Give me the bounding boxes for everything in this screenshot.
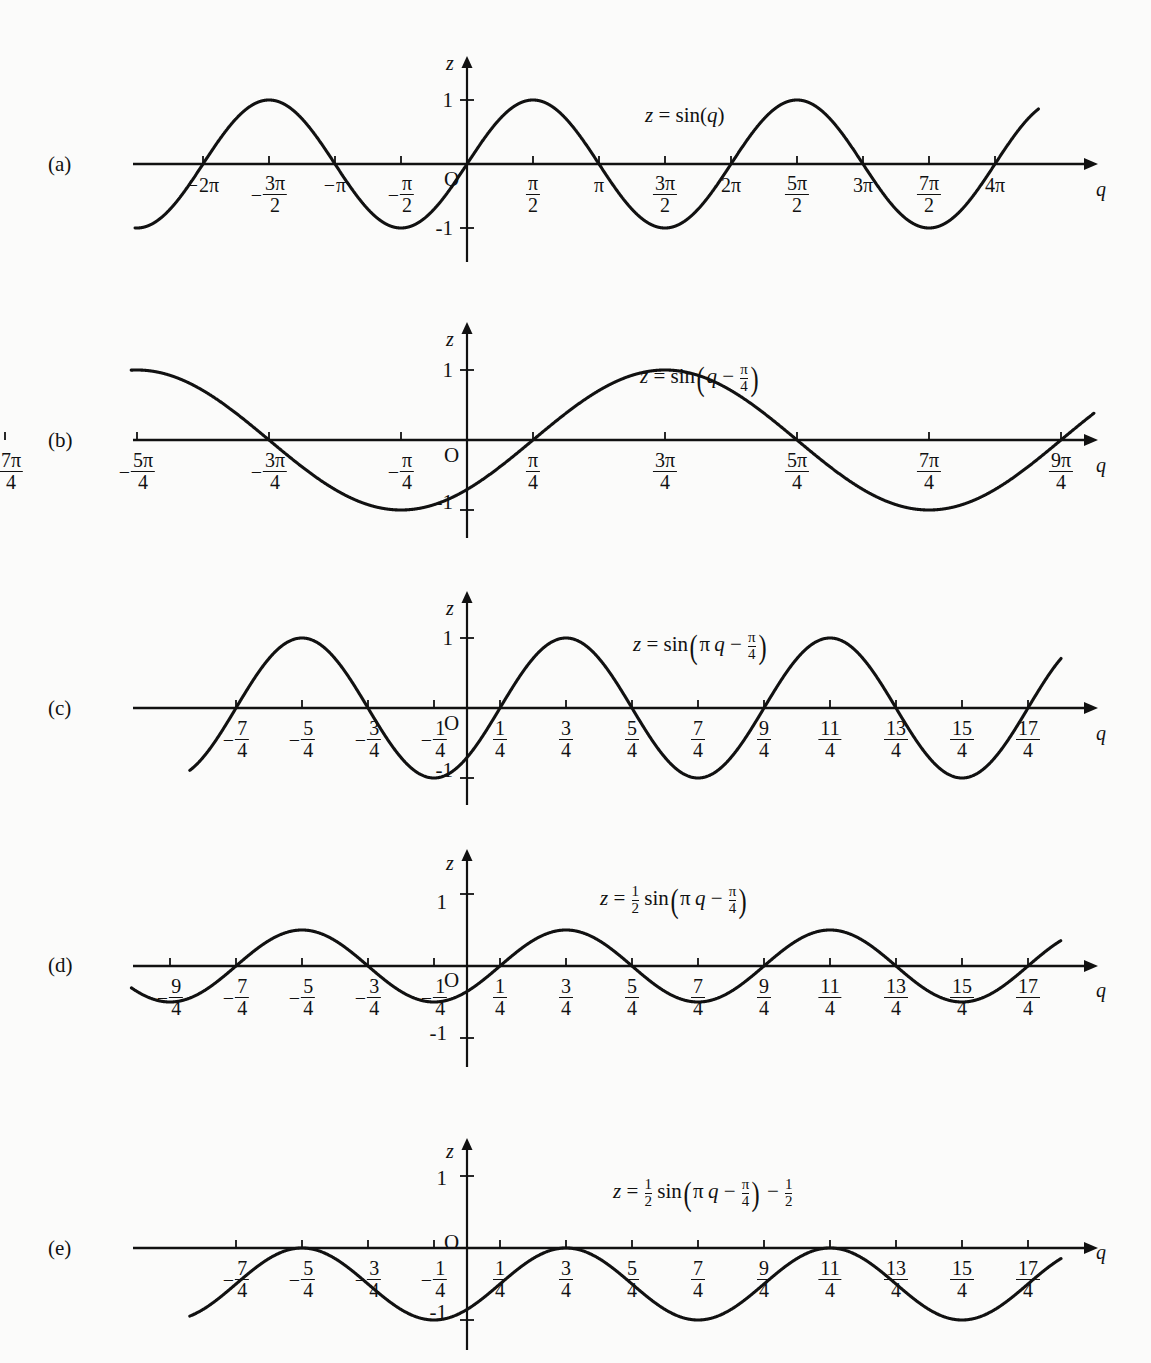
x-tick-label: −3π2 — [251, 173, 287, 216]
x-tick-label: 94 — [757, 976, 771, 1019]
x-tick-label: −74 — [223, 976, 249, 1019]
y-axis-arrow — [462, 322, 473, 334]
y-axis-arrow — [462, 849, 473, 861]
x-tick-label: −54 — [289, 718, 315, 761]
x-axis-label-b: q — [1096, 454, 1106, 477]
x-tick-label: 114 — [818, 718, 841, 761]
x-tick-label: 5π4 — [785, 450, 809, 493]
x-tick-label: 114 — [818, 976, 841, 1019]
x-tick-label: 134 — [884, 976, 908, 1019]
x-axis-label-e: q — [1096, 1241, 1106, 1264]
x-axis-label-c: q — [1096, 722, 1106, 745]
x-tick-label: π2 — [526, 173, 540, 216]
x-tick-label: 14 — [493, 1258, 507, 1301]
y-tick-e-1: 1 — [421, 1166, 447, 1191]
y-tick-b-1: 1 — [427, 358, 453, 383]
x-tick-label: −7π4 — [0, 450, 23, 493]
y-tick-a-minus1: -1 — [415, 216, 453, 241]
x-tick-label: 94 — [757, 1258, 771, 1301]
y-axis-label-b: z — [446, 328, 454, 351]
x-tick-label: 54 — [625, 718, 639, 761]
x-tick-label: 74 — [691, 976, 705, 1019]
x-tick-label: 154 — [950, 1258, 974, 1301]
x-tick-label: 34 — [559, 718, 573, 761]
equation-a: z = sin(q) — [645, 103, 725, 128]
chart-panel-d: (d) z q O 1 -1 z = 12 sin(π q − π4) −94−… — [0, 845, 1151, 1120]
x-tick-label: 174 — [1016, 1258, 1040, 1301]
y-axis-label-d: z — [446, 852, 454, 875]
chart-panel-a: (a) z q O 1 -1 z = sin(q) −2π−3π2−π−π2π2… — [0, 0, 1151, 300]
y-axis-arrow — [462, 1138, 473, 1150]
x-tick-label: 7π4 — [917, 450, 941, 493]
x-tick-label: 154 — [950, 976, 974, 1019]
x-tick-label: 14 — [493, 718, 507, 761]
x-tick-label: 7π2 — [917, 173, 941, 216]
y-tick-d-1: 1 — [421, 890, 447, 915]
y-axis-label-c: z — [446, 597, 454, 620]
x-tick-label: 114 — [818, 1258, 841, 1301]
x-tick-label: 3π2 — [653, 173, 677, 216]
x-tick-label: 4π — [985, 173, 1005, 195]
plot-area-c — [0, 575, 1151, 845]
x-tick-label: 74 — [691, 1258, 705, 1301]
x-tick-label: 94 — [757, 718, 771, 761]
x-tick-label: 14 — [493, 976, 507, 1019]
equation-d: z = 12 sin(π q − π4) — [600, 884, 749, 917]
x-tick-label: −2π — [187, 173, 219, 195]
origin-label-a: O — [444, 167, 459, 192]
x-axis-arrow — [1084, 702, 1098, 714]
x-tick-label: 54 — [625, 1258, 639, 1301]
y-tick-c-minus1: -1 — [415, 758, 453, 783]
y-axis-label-e: z — [446, 1140, 454, 1163]
x-tick-label: 3π — [853, 173, 873, 195]
x-tick-label: 134 — [884, 1258, 908, 1301]
x-tick-label: 3π4 — [653, 450, 677, 493]
x-tick-label: −3π4 — [251, 450, 287, 493]
x-tick-label: 174 — [1016, 976, 1040, 1019]
x-tick-label: 54 — [625, 976, 639, 1019]
y-tick-a-1: 1 — [427, 88, 453, 113]
y-axis-arrow — [462, 56, 473, 68]
x-tick-label: −94 — [157, 976, 183, 1019]
y-tick-d-minus1: -1 — [409, 1021, 447, 1046]
x-tick-label: −54 — [289, 976, 315, 1019]
x-tick-label: −34 — [355, 976, 381, 1019]
y-tick-c-1: 1 — [427, 626, 453, 651]
y-tick-e-minus1: -1 — [409, 1300, 447, 1325]
x-tick-label: −π2 — [388, 173, 414, 216]
equation-b: z = sin(q − π4) — [640, 362, 760, 395]
y-axis-arrow — [462, 591, 473, 603]
x-tick-label: −34 — [355, 718, 381, 761]
x-tick-label: 154 — [950, 718, 974, 761]
x-tick-label: −14 — [421, 976, 447, 1019]
x-tick-label: π4 — [526, 450, 540, 493]
x-tick-label: −14 — [421, 718, 447, 761]
chart-panel-c: (c) z q O 1 -1 z = sin(π q − π4) −74−54−… — [0, 575, 1151, 845]
origin-label-e: O — [444, 1230, 459, 1255]
y-tick-b-minus1: -1 — [415, 490, 453, 515]
x-tick-label: 134 — [884, 718, 908, 761]
x-tick-label: −5π4 — [119, 450, 155, 493]
x-tick-label: 74 — [691, 718, 705, 761]
chart-panel-e: (e) z q O 1 -1 z = 12 sin(π q − π4) − 12… — [0, 1120, 1151, 1363]
equation-c: z = sin(π q − π4) — [633, 630, 768, 663]
x-tick-label: −34 — [355, 1258, 381, 1301]
x-tick-label: −54 — [289, 1258, 315, 1301]
x-tick-label: −π — [324, 173, 346, 195]
x-tick-label: 2π — [721, 173, 741, 195]
x-tick-label: 5π2 — [785, 173, 809, 216]
x-tick-label: 34 — [559, 1258, 573, 1301]
x-axis-label-d: q — [1096, 979, 1106, 1002]
x-tick-label: −14 — [421, 1258, 447, 1301]
origin-label-b: O — [444, 443, 459, 468]
plot-area-e — [0, 1120, 1151, 1363]
y-axis-label-a: z — [446, 52, 454, 75]
x-axis-label-a: q — [1096, 178, 1106, 201]
x-tick-label: 174 — [1016, 718, 1040, 761]
plot-area-b — [0, 300, 1151, 575]
x-tick-label: 9π4 — [1049, 450, 1073, 493]
x-tick-label: −74 — [223, 1258, 249, 1301]
x-axis-arrow — [1084, 960, 1098, 972]
plot-area-a — [0, 0, 1151, 300]
x-axis-arrow — [1084, 434, 1098, 446]
